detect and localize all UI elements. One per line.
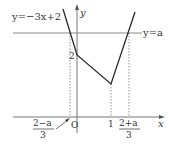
label-y-intercept: 2 [69,51,75,61]
right-root-denominator: 3 [126,130,132,140]
left-root-numerator: 2−a [33,118,52,128]
label-x-axis: x [158,118,164,129]
left-root-denominator: 3 [40,130,46,140]
left-root-pointer [56,120,68,129]
function-curve [63,9,135,84]
function-graph: y=−3x+2 y y=a 2 O 1 x 2−a 3 2+a 3 [0,0,169,150]
label-x-one: 1 [108,119,114,129]
y-axis-arrow-icon [75,4,79,10]
label-y-axis: y [79,7,86,18]
label-line-a: y=a [142,27,163,38]
label-curve-left: y=−3x+2 [11,11,61,22]
label-origin: O [71,120,78,130]
right-root-numerator: 2+a [119,118,138,128]
